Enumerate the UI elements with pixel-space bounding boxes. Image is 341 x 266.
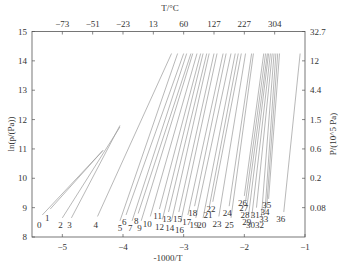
series-line-1 [50, 150, 103, 209]
vapor-pressure-chart: 0123456789101112131415161718192021222324… [0, 0, 341, 266]
series-label-9: 9 [137, 223, 142, 233]
series-line-14 [172, 54, 210, 221]
series-label-30: 30 [246, 220, 256, 230]
series-line-26 [244, 54, 263, 196]
series-labels: 0123456789101112131415161718192021222324… [37, 198, 286, 234]
right-tick-label: 0.2 [310, 173, 321, 183]
right-tick-label: 12 [310, 56, 319, 66]
top-tick-label: 60 [179, 19, 189, 29]
right-tick-label: 0.6 [310, 144, 322, 154]
series-label-35: 35 [262, 200, 272, 210]
right-tick-label: 32.7 [310, 27, 326, 37]
x-axis-title: -1000/T [154, 253, 183, 263]
series-line-25 [231, 54, 253, 218]
top-tick-label: 304 [268, 19, 282, 29]
right-tick-label: 0.08 [310, 203, 326, 213]
x-tick-label: −3 [179, 242, 189, 252]
top-tick-label: −51 [86, 19, 100, 29]
top-tick-label: −23 [116, 19, 131, 29]
series-line-17 [188, 54, 223, 215]
series-lines [42, 54, 300, 223]
y-tick-label: 15 [18, 27, 28, 37]
y-tick-label: 10 [18, 173, 28, 183]
series-line-20 [203, 54, 235, 218]
series-label-2: 2 [58, 220, 63, 230]
right-y-axis: 0.080.20.61.54.41232.7 [302, 27, 326, 213]
series-line-21 [209, 54, 238, 208]
series-label-11: 11 [153, 211, 162, 221]
top-x-axis: −73−51−231360127227304 [55, 19, 282, 35]
series-label-18: 18 [188, 208, 198, 218]
series-line-2 [62, 127, 120, 218]
x-tick-label: −2 [240, 242, 250, 252]
y-tick-label: 14 [18, 56, 28, 66]
series-label-24: 24 [223, 208, 233, 218]
series-label-36: 36 [276, 214, 286, 224]
series-label-23: 23 [213, 219, 223, 229]
x-tick-label: −4 [118, 242, 128, 252]
series-label-22: 22 [206, 204, 215, 214]
series-label-3: 3 [67, 220, 72, 230]
top-tick-label: 127 [207, 19, 221, 29]
x-tick-label: −1 [300, 242, 310, 252]
series-line-22 [213, 54, 242, 202]
x-tick-label: −5 [58, 242, 68, 252]
top-tick-label: 13 [149, 19, 159, 29]
left-y-axis: 89101112131415 [18, 27, 35, 243]
series-label-25: 25 [225, 220, 235, 230]
series-label-10: 10 [143, 219, 153, 229]
series-label-0: 0 [37, 220, 42, 230]
series-line-29 [249, 54, 269, 215]
y-tick-label: 13 [18, 85, 28, 95]
series-label-6: 6 [122, 217, 127, 227]
top-tick-label: −73 [55, 19, 70, 29]
top-tick-label: 227 [238, 19, 252, 29]
series-label-1: 1 [45, 213, 50, 223]
right-tick-label: 1.5 [310, 115, 322, 125]
y-tick-label: 9 [23, 203, 28, 213]
series-label-14: 14 [165, 223, 175, 233]
y-tick-label: 8 [23, 232, 28, 242]
y-tick-label: 12 [18, 115, 27, 125]
series-line-33 [265, 54, 276, 213]
right-tick-label: 4.4 [310, 85, 322, 95]
series-label-20: 20 [197, 220, 207, 230]
series-line-3 [71, 125, 120, 217]
series-label-4: 4 [93, 220, 98, 230]
y-tick-label: 11 [18, 144, 27, 154]
series-line-36 [284, 54, 300, 213]
series-label-7: 7 [128, 223, 133, 233]
series-line-18 [195, 54, 227, 207]
top-axis-title: T/°C [161, 3, 179, 13]
series-label-15: 15 [173, 214, 183, 224]
y-axis-title: ln(p/(Pa)) [6, 117, 16, 152]
right-axis-title: P/(10^5 Pa) [328, 113, 338, 155]
